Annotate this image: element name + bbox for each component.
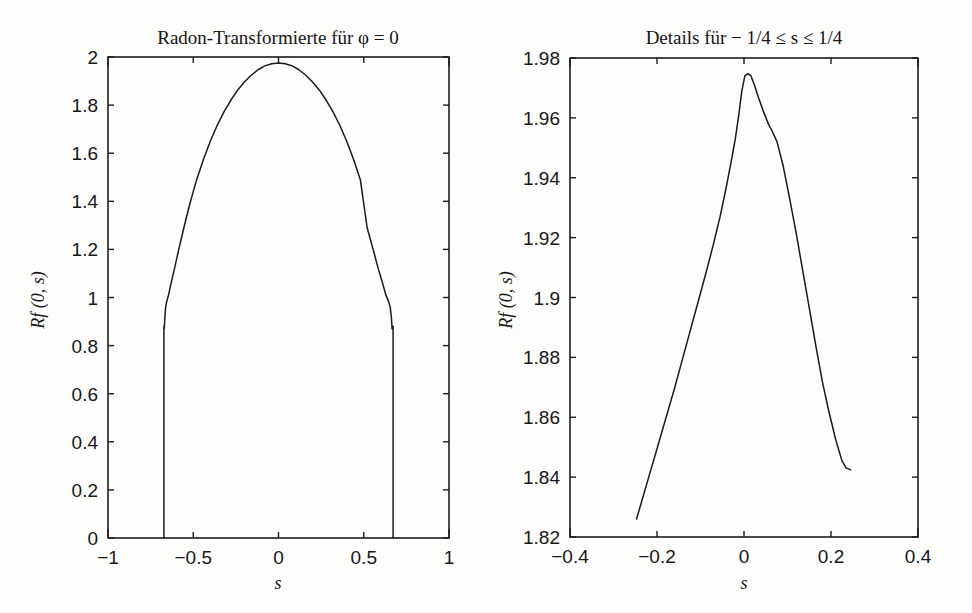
- plot-frame-left: [108, 57, 449, 538]
- y-tick-label: 0.8: [72, 336, 98, 357]
- y-tick-label: 0.4: [72, 432, 99, 453]
- y-tick-label: 1.94: [523, 168, 560, 189]
- y-tick-label: 1.9: [534, 288, 560, 309]
- x-axis-ticks-left: [108, 57, 449, 538]
- y-tick-label: 1.98: [523, 48, 560, 69]
- chart-svg-right: Details für − 1/4 ≤ s ≤ 1/4 −0.4−0.200.2…: [486, 0, 972, 613]
- x-tick-label: 0: [739, 546, 750, 567]
- x-tick-label: −0.2: [638, 546, 676, 567]
- x-tick-label: −0.5: [174, 547, 212, 568]
- chart-panel-right: Details für − 1/4 ≤ s ≤ 1/4 −0.4−0.200.2…: [486, 0, 972, 613]
- y-tick-label: 1.86: [523, 407, 560, 428]
- plot-frame-right: [570, 58, 918, 537]
- chart-svg-left: Radon-Transformierte für φ = 0 −1−0.500.…: [0, 0, 486, 613]
- x-tick-label: −1: [97, 547, 119, 568]
- y-tick-label: 1.2: [72, 239, 98, 260]
- y-tick-label: 1.4: [72, 191, 99, 212]
- y-tick-label: 1.82: [523, 527, 560, 548]
- x-tick-label: 0: [273, 547, 284, 568]
- y-tick-label: 1.6: [72, 143, 98, 164]
- y-axis-ticks-right: [570, 58, 918, 537]
- y-tick-label: 0.2: [72, 480, 98, 501]
- chart-panel-left: Radon-Transformierte für φ = 0 −1−0.500.…: [0, 0, 486, 613]
- x-tick-label: 0.5: [351, 547, 377, 568]
- data-curve-right: [637, 74, 851, 519]
- x-axis-ticks-right: [570, 58, 918, 537]
- chart-title-right: Details für − 1/4 ≤ s ≤ 1/4: [646, 27, 843, 48]
- y-tick-label: 0.6: [72, 384, 98, 405]
- y-axis-label-right: Rf (0, s): [496, 271, 517, 330]
- x-tick-label: −0.4: [551, 546, 589, 567]
- chart-title-left: Radon-Transformierte für φ = 0: [157, 27, 399, 48]
- y-tick-label: 1.8: [72, 95, 98, 116]
- y-tick-label: 2: [87, 47, 98, 68]
- y-tick-label: 1.84: [523, 467, 560, 488]
- x-tick-label: 1: [444, 547, 455, 568]
- x-axis-label-right: s: [740, 573, 747, 593]
- x-tick-label: 0.4: [905, 546, 932, 567]
- y-tick-label: 1.88: [523, 347, 560, 368]
- x-tick-label: 0.2: [818, 546, 844, 567]
- figure-container: Radon-Transformierte für φ = 0 −1−0.500.…: [0, 0, 972, 613]
- x-axis-label-left: s: [274, 573, 281, 593]
- data-curve-left: [164, 63, 393, 538]
- y-axis-label-left: Rf (0, s): [28, 271, 49, 330]
- y-tick-label: 1.92: [523, 228, 560, 249]
- y-axis-tick-labels-left: 00.20.40.60.811.21.41.61.82: [72, 47, 99, 549]
- y-tick-label: 1: [87, 288, 98, 309]
- x-axis-tick-labels-right: −0.4−0.200.20.4: [551, 546, 931, 567]
- y-axis-tick-labels-right: 1.821.841.861.881.91.921.941.961.98: [523, 48, 560, 548]
- y-tick-label: 0: [87, 528, 98, 549]
- y-tick-label: 1.96: [523, 108, 560, 129]
- x-axis-tick-labels-left: −1−0.500.51: [97, 547, 454, 568]
- y-axis-ticks-left: [108, 57, 449, 538]
